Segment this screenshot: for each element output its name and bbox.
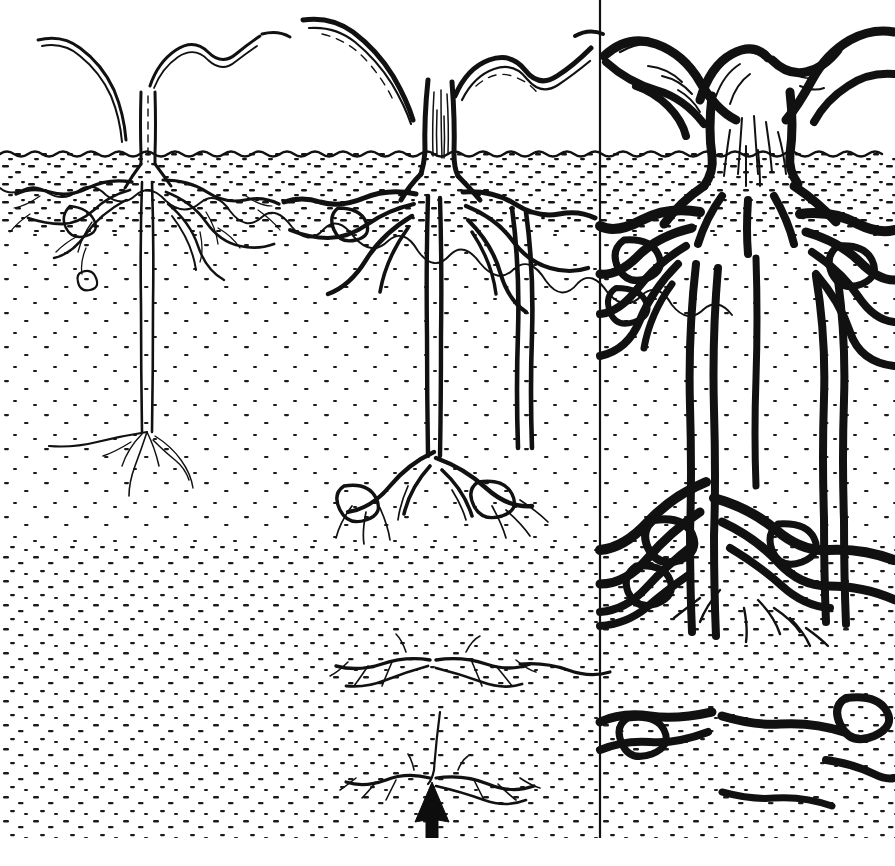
- sapling-sinker-left-a: [427, 196, 428, 456]
- mature-sinker-c: [755, 258, 757, 486]
- soil-layers: [0, 152, 895, 839]
- seedling-taproot-left: [141, 182, 142, 432]
- mature-sinker-l-b: [714, 268, 719, 636]
- seedling-stem-right: [155, 92, 156, 164]
- topsoil-layer: [0, 153, 895, 232]
- root-system-figure: [0, 0, 895, 866]
- caption-strip: [0, 856, 895, 866]
- subsoil-layer: [0, 232, 895, 545]
- seedling-taproot-right: [152, 182, 153, 432]
- mature-flare-c: [747, 200, 748, 254]
- seedling-stem-left: [141, 92, 142, 164]
- deep-soil-layer: [0, 545, 895, 838]
- illustration-canvas: [0, 0, 895, 866]
- sapling-sinker-left-b: [440, 198, 441, 456]
